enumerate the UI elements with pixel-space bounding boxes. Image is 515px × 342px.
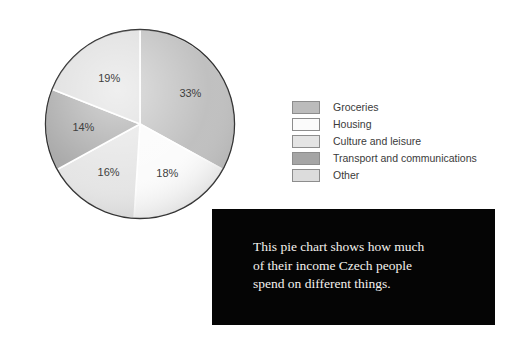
legend-swatch: [292, 169, 320, 182]
legend-swatch: [292, 152, 320, 165]
legend-label: Groceries: [333, 101, 379, 114]
legend-item: Groceries: [292, 99, 507, 115]
legend-label: Other: [333, 169, 359, 182]
caption-text: This pie chart shows how much of their i…: [253, 238, 478, 294]
legend-item: Transport and communications: [292, 150, 507, 166]
legend-label: Housing: [333, 118, 372, 131]
pie-chart: 33%18%16%14%19%: [44, 28, 236, 220]
legend-item: Housing: [292, 116, 507, 132]
chart-page: 33%18%16%14%19% GroceriesHousingCulture …: [0, 0, 515, 342]
pie-chart-svg: 33%18%16%14%19%: [44, 28, 236, 220]
legend-swatch: [292, 101, 320, 114]
pie-shading: [46, 30, 235, 219]
legend-swatch: [292, 118, 320, 131]
legend-item: Other: [292, 167, 507, 183]
legend-label: Culture and leisure: [333, 135, 421, 148]
legend-item: Culture and leisure: [292, 133, 507, 149]
legend-label: Transport and communications: [333, 152, 477, 165]
caption-box: This pie chart shows how much of their i…: [212, 209, 495, 325]
legend-swatch: [292, 135, 320, 148]
legend: GroceriesHousingCulture and leisureTrans…: [292, 99, 507, 184]
